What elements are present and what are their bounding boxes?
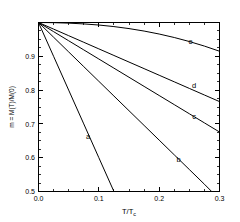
curve-b xyxy=(39,23,212,192)
curve-a xyxy=(39,23,114,192)
chart-figure: 0.00.10.20.3 0.50.60.70.80.9 abcde T/Tc … xyxy=(0,0,240,222)
y-axis-title: m = M(T)/M(0) xyxy=(8,86,16,128)
x-tick-label: 0.3 xyxy=(215,195,225,202)
x-tick-label: 0.2 xyxy=(154,195,164,202)
x-axis-tick-labels: 0.00.10.20.3 xyxy=(34,195,225,202)
svg-text:T/Tc: T/Tc xyxy=(122,207,136,217)
x-tick-label: 0.0 xyxy=(34,195,44,202)
curve-label-c: c xyxy=(192,112,196,121)
curve-label-b: b xyxy=(176,155,180,164)
x-axis-major-ticks xyxy=(39,23,220,192)
y-axis-minor-ticks xyxy=(39,23,220,184)
x-tick-label: 0.1 xyxy=(94,195,104,202)
y-tick-label: 0.8 xyxy=(25,87,35,94)
plot-frame xyxy=(39,23,220,192)
curve-label-e: e xyxy=(188,37,192,46)
chart-svg: 0.00.10.20.3 0.50.60.70.80.9 abcde T/Tc … xyxy=(0,0,240,222)
curve-labels: abcde xyxy=(86,37,196,164)
y-axis-tick-labels: 0.50.60.70.80.9 xyxy=(25,53,35,195)
x-axis-title: T/Tc xyxy=(122,207,136,217)
data-curves xyxy=(39,23,220,192)
y-tick-label: 0.6 xyxy=(25,154,35,161)
y-tick-label: 0.7 xyxy=(25,121,35,128)
curve-label-d: d xyxy=(192,81,196,90)
y-axis-major-ticks xyxy=(39,56,220,191)
y-tick-label: 0.5 xyxy=(25,188,35,195)
y-axis-title-text: m = M(T)/M(0) xyxy=(8,86,16,128)
y-tick-label: 0.9 xyxy=(25,53,35,60)
